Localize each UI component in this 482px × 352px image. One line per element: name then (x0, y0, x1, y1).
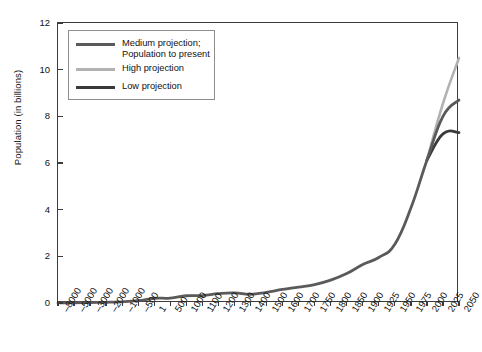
y-tick-label: 0 (45, 296, 50, 310)
legend-label-medium: Medium projection; Population to present (122, 38, 210, 61)
y-tick-mark (58, 69, 63, 70)
y-tick-label: 8 (45, 109, 50, 123)
x-tick-mark (362, 301, 363, 306)
y-tick-mark (58, 116, 63, 117)
y-tick-label: 2 (45, 249, 50, 263)
legend-swatch-high (76, 68, 115, 71)
y-tick-label: 6 (45, 156, 50, 170)
x-tick-mark (73, 301, 74, 306)
x-tick-mark (282, 301, 283, 306)
y-tick-label: 4 (45, 203, 50, 217)
x-tick-mark (234, 301, 235, 306)
x-tick-label: 1 (156, 304, 168, 314)
x-tick-mark (186, 301, 187, 306)
x-tick-mark (410, 301, 411, 306)
x-tick-mark (378, 301, 379, 306)
x-tick-mark (105, 301, 106, 306)
x-tick-mark (122, 301, 123, 306)
y-tick-mark (58, 162, 63, 163)
x-tick-mark (170, 301, 171, 306)
chart-legend: Medium projection; Population to present… (68, 30, 215, 100)
legend-label-low: Low projection (122, 81, 182, 92)
legend-item-high: High projection (76, 63, 184, 74)
x-tick-mark (426, 301, 427, 306)
x-tick-mark (218, 301, 219, 306)
y-tick-mark (58, 209, 63, 210)
x-tick-mark (394, 301, 395, 306)
x-tick-mark (138, 301, 139, 306)
x-tick-mark (314, 301, 315, 306)
x-tick-label: 2050 (461, 290, 482, 314)
x-tick-mark (57, 301, 58, 306)
y-tick-label: 12 (39, 16, 50, 30)
x-tick-mark (250, 301, 251, 306)
x-tick-mark (330, 301, 331, 306)
x-tick-mark (202, 301, 203, 306)
y-axis-title: Population (in billions) (12, 38, 23, 198)
legend-item-low: Low projection (76, 81, 182, 92)
x-tick-mark (89, 301, 90, 306)
x-tick-mark (298, 301, 299, 306)
legend-label-high: High projection (122, 63, 184, 74)
legend-item-medium: Medium projection; Population to present (76, 38, 210, 61)
x-tick-mark (154, 301, 155, 306)
y-tick-mark (58, 256, 63, 257)
series-line (58, 100, 459, 303)
legend-swatch-low (76, 86, 115, 89)
x-tick-mark (442, 301, 443, 306)
y-tick-mark (58, 22, 63, 23)
x-tick-mark (346, 301, 347, 306)
x-tick-mark (266, 301, 267, 306)
y-tick-label: 10 (39, 63, 50, 77)
x-tick-mark (458, 301, 459, 306)
legend-swatch-medium (76, 43, 115, 46)
